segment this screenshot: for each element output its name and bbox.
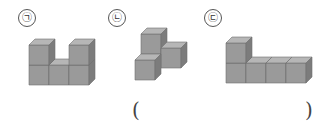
figure-nieun (135, 28, 187, 80)
answer-blank[interactable] (145, 98, 305, 118)
answer-open-paren: ( (132, 98, 140, 122)
figure-giyeok (29, 39, 95, 85)
answer-close-paren: ) (305, 98, 313, 122)
figure-digeut (226, 37, 312, 83)
